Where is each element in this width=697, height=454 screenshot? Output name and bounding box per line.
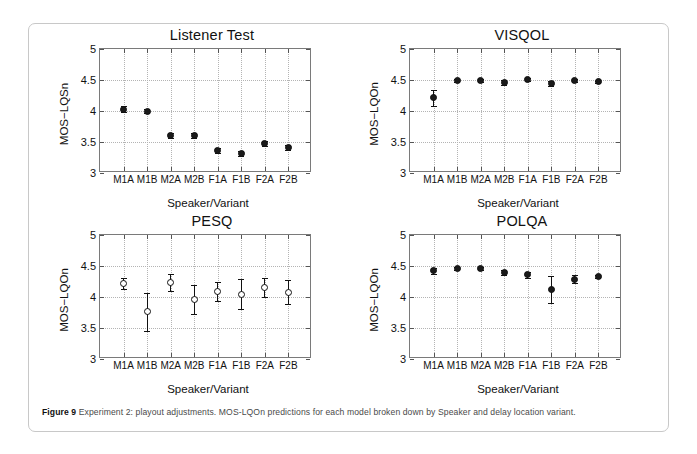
- y-tick-label: 4: [90, 105, 96, 117]
- data-marker: [120, 280, 127, 287]
- x-tick-label: M2A: [160, 360, 181, 371]
- error-bar-cap: [262, 278, 268, 279]
- figure-caption: Figure 9 Experiment 2: playout adjustmen…: [42, 407, 655, 419]
- x-tick-label: M2B: [494, 360, 515, 371]
- data-marker: [167, 279, 174, 286]
- x-tick-mark: [481, 353, 482, 357]
- gridline-horizontal: [410, 142, 620, 143]
- y-tick-mark: [410, 297, 414, 298]
- gridline-vertical: [171, 235, 172, 357]
- y-tick-label: 5: [400, 229, 406, 241]
- x-tick-mark: [288, 167, 289, 171]
- x-tick-mark: [528, 167, 529, 171]
- data-marker: [454, 265, 461, 272]
- y-tick-mark: [100, 142, 104, 143]
- x-tick-mark: [457, 167, 458, 171]
- data-marker: [477, 265, 484, 272]
- x-tick-mark: [171, 235, 172, 239]
- error-bar-cap: [431, 90, 437, 91]
- data-marker: [144, 308, 151, 315]
- gridline-vertical: [288, 49, 289, 171]
- x-tick-label: M2B: [184, 174, 205, 185]
- x-tick-mark: [551, 167, 552, 171]
- gridline-horizontal: [100, 328, 310, 329]
- x-tick-mark: [457, 353, 458, 357]
- data-marker: [571, 276, 578, 283]
- x-tick-label: F2A: [256, 174, 274, 185]
- x-tick-mark: [528, 353, 529, 357]
- x-tick-mark: [265, 167, 266, 171]
- y-axis-label-visqol: MOS−LQOn: [368, 59, 380, 169]
- x-tick-label: M2B: [494, 174, 515, 185]
- plot-grid: Listener TestMOS−LQSnSpeaker/Variant33.5…: [29, 24, 670, 396]
- gridline-horizontal: [410, 328, 620, 329]
- y-tick-mark: [616, 142, 620, 143]
- panel-visqol: VISQOLMOS−LQOnSpeaker/Variant33.544.55M1…: [347, 24, 657, 210]
- plot-area-polqa: 33.544.55M1AM1BM2AM2BF1AF1BF2AF2B: [409, 234, 621, 358]
- x-tick-mark: [124, 49, 125, 53]
- x-axis-label-polqa: Speaker/Variant: [387, 383, 649, 395]
- x-tick-mark: [504, 235, 505, 239]
- data-marker: [238, 150, 245, 157]
- panel-title-pesq: PESQ: [37, 213, 347, 229]
- panel-polqa: POLQAMOS−LQOnSpeaker/Variant33.544.55M1A…: [347, 210, 657, 396]
- gridline-vertical: [171, 49, 172, 171]
- panel-title-listener-test: Listener Test: [37, 27, 347, 43]
- x-tick-label: F1B: [232, 174, 250, 185]
- x-tick-mark: [504, 49, 505, 53]
- x-tick-mark: [457, 49, 458, 53]
- x-tick-mark: [241, 235, 242, 239]
- x-tick-label: F2A: [256, 360, 274, 371]
- y-tick-label: 4: [90, 291, 96, 303]
- y-tick-label: 3.5: [81, 136, 96, 148]
- error-bar-cap: [238, 309, 244, 310]
- gridline-vertical: [481, 49, 482, 171]
- y-tick-mark: [100, 266, 104, 267]
- x-tick-mark: [481, 49, 482, 53]
- x-tick-mark: [124, 235, 125, 239]
- x-tick-mark: [575, 235, 576, 239]
- x-tick-label: F1B: [542, 174, 560, 185]
- x-tick-mark: [551, 353, 552, 357]
- gridline-vertical: [434, 49, 435, 171]
- gridline-vertical: [457, 235, 458, 357]
- y-tick-mark: [616, 266, 620, 267]
- gridline-vertical: [575, 235, 576, 357]
- y-tick-mark: [100, 49, 104, 50]
- x-tick-mark: [434, 49, 435, 53]
- error-bar-cap: [144, 293, 150, 294]
- y-tick-label: 4: [400, 291, 406, 303]
- y-tick-mark: [616, 111, 620, 112]
- y-tick-label: 4.5: [81, 260, 96, 272]
- gridline-vertical: [528, 49, 529, 171]
- data-marker: [524, 76, 531, 83]
- x-tick-label: M1A: [423, 174, 444, 185]
- data-marker: [595, 273, 602, 280]
- data-marker: [501, 269, 508, 276]
- y-tick-mark: [410, 142, 414, 143]
- data-marker: [214, 288, 221, 295]
- x-tick-mark: [504, 167, 505, 171]
- x-tick-label: F2B: [589, 174, 607, 185]
- gridline-vertical: [265, 49, 266, 171]
- gridline-horizontal: [100, 142, 310, 143]
- x-tick-label: M1B: [447, 360, 468, 371]
- data-marker: [191, 132, 198, 139]
- x-tick-label: M1B: [137, 174, 158, 185]
- y-tick-mark: [306, 235, 310, 236]
- gridline-horizontal: [100, 111, 310, 112]
- x-tick-mark: [598, 353, 599, 357]
- y-tick-mark: [410, 49, 414, 50]
- y-tick-mark: [410, 328, 414, 329]
- x-tick-label: F1A: [519, 360, 537, 371]
- x-tick-mark: [434, 353, 435, 357]
- y-tick-mark: [616, 297, 620, 298]
- gridline-vertical: [504, 49, 505, 171]
- plot-area-listener-test: 33.544.55M1AM1BM2AM2BF1AF1BF2AF2B: [99, 48, 311, 172]
- y-tick-label: 3: [400, 167, 406, 179]
- error-bar-cap: [431, 106, 437, 107]
- y-tick-label: 5: [90, 43, 96, 55]
- x-tick-mark: [481, 167, 482, 171]
- y-tick-label: 4.5: [81, 74, 96, 86]
- y-tick-mark: [306, 111, 310, 112]
